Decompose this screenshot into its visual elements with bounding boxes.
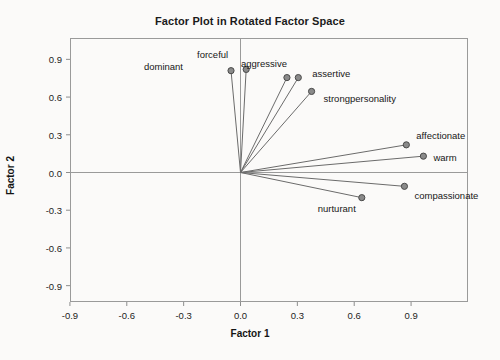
point-label-assertive: assertive	[312, 68, 350, 79]
y-tick-label: -0.9	[28, 280, 62, 291]
data-point-marker[interactable]	[403, 142, 409, 148]
data-point-marker[interactable]	[284, 74, 290, 80]
point-label-compassionate: compassionate	[414, 190, 478, 201]
x-tick-label: 0.0	[221, 310, 261, 321]
vector-line	[241, 69, 247, 172]
vector-line	[241, 78, 299, 173]
x-tick-label: -0.3	[164, 310, 204, 321]
vector-line	[241, 145, 407, 173]
vector-line	[231, 71, 240, 173]
x-tick-label: 0.9	[391, 310, 431, 321]
data-point-marker[interactable]	[420, 153, 426, 159]
point-label-aggressive: aggressive	[0, 58, 287, 69]
vector-line	[241, 91, 312, 172]
x-tick-label: 0.6	[334, 310, 374, 321]
vector-line	[241, 156, 424, 172]
point-label-strongpersonality: strongpersonality	[324, 93, 396, 104]
vector-line	[241, 173, 362, 198]
data-point-marker[interactable]	[401, 183, 407, 189]
data-point-marker[interactable]	[308, 88, 314, 94]
y-tick-label: -0.6	[28, 242, 62, 253]
point-label-nurturant: nurturant	[0, 203, 356, 214]
x-tick-label: 0.3	[277, 310, 317, 321]
figure-canvas: Factor Plot in Rotated Factor Space 0.90…	[0, 0, 500, 360]
y-tick-label: 0.0	[28, 167, 62, 178]
y-axis-label: Factor 2	[5, 156, 16, 195]
point-label-warm: warm	[433, 152, 456, 163]
vector-line	[241, 173, 405, 187]
data-point-marker[interactable]	[359, 195, 365, 201]
data-point-marker[interactable]	[295, 74, 301, 80]
y-tick-label: 0.6	[28, 92, 62, 103]
y-tick-label: 0.3	[28, 129, 62, 140]
x-tick-label: -0.6	[107, 310, 147, 321]
point-label-affectionate: affectionate	[416, 130, 465, 141]
x-tick-label: -0.9	[50, 310, 90, 321]
x-axis-label: Factor 1	[0, 328, 500, 339]
vector-line	[241, 78, 287, 173]
